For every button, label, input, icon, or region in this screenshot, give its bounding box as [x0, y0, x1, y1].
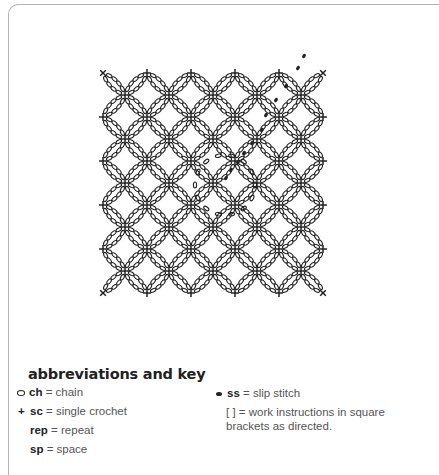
legend-item-brackets-cont: brackets as directed. — [226, 420, 332, 432]
legend-item-slip-stitch: ss = slip stitch — [216, 387, 300, 399]
slip-stitch-icon — [216, 392, 222, 396]
legend-item-chain: ch = chain — [17, 386, 83, 398]
legend-item-brackets: [ ] = work instructions in square — [226, 406, 385, 418]
legend-item-single-crochet: +sc = single crochet — [18, 405, 127, 417]
plus-icon: + — [18, 405, 30, 417]
legend-item-repeat: rep = repeat — [30, 424, 94, 436]
chain-icon — [17, 390, 25, 396]
crochet-chart — [0, 0, 426, 365]
legend-title: abbreviations and key — [28, 366, 205, 382]
legend-item-space: sp = space — [30, 443, 87, 455]
